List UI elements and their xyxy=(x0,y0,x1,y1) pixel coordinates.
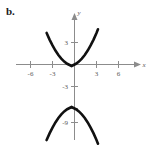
part-label: b. xyxy=(6,6,15,17)
x-tick-label-3: 3 xyxy=(95,70,99,78)
curve-upper-branch xyxy=(47,29,98,66)
x-axis-label: x xyxy=(141,61,146,69)
y-axis-label: y xyxy=(76,9,81,17)
x-tick-label--6: -6 xyxy=(28,70,34,78)
y-tick-label--9: -9 xyxy=(62,119,68,127)
x-axis-arrowhead xyxy=(134,62,141,68)
figure-container: b. -6 -3 3 6 3 xyxy=(0,0,152,145)
x-tick-label--3: -3 xyxy=(50,70,56,78)
coordinate-plot: -6 -3 3 6 3 -3 -9 x y xyxy=(0,0,152,145)
y-axis xyxy=(72,13,78,140)
y-tick-label-3: 3 xyxy=(65,39,69,47)
y-tick-label--3: -3 xyxy=(62,83,68,91)
x-tick-label-6: 6 xyxy=(117,70,121,78)
curve-lower-branch xyxy=(47,107,98,144)
